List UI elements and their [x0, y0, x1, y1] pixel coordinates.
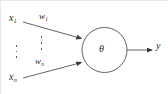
ellipsis-dot	[16, 56, 18, 58]
ellipsis-dot	[41, 48, 43, 50]
input-arrow-1	[23, 22, 82, 39]
neuron-theta-label: θ	[99, 44, 104, 54]
ellipsis-dot	[16, 45, 18, 47]
neuron-schematic-svg	[0, 0, 168, 94]
input-label-x1: x1	[9, 13, 17, 23]
input-label-xn: xn	[9, 72, 17, 82]
output-label-y: y	[156, 41, 160, 51]
inputs-ellipsis-icon	[15, 45, 18, 58]
ellipsis-dot	[41, 36, 43, 38]
weight-label-wn: wn	[35, 57, 44, 66]
input-arrow-n	[23, 63, 82, 79]
ellipsis-dot	[16, 51, 18, 53]
ellipsis-dot	[41, 42, 43, 44]
weight-label-w1: w1	[39, 12, 48, 21]
neuron-diagram: x1 xn w1 wn θ y	[0, 0, 168, 94]
weights-ellipsis-icon	[40, 36, 43, 50]
neuron-body-circle	[82, 28, 127, 73]
